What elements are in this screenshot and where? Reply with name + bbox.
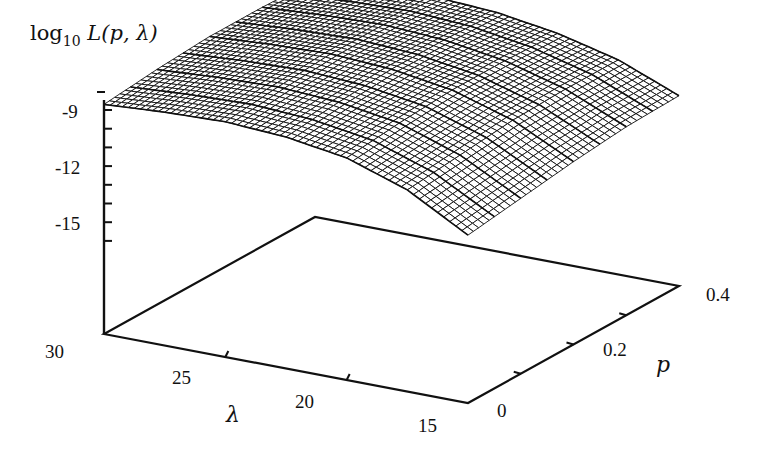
likelihood-surface [104, 0, 679, 235]
lambda-axis-title: λ [225, 402, 240, 427]
z-axis-title: log10 L(p, λ) [30, 21, 158, 49]
lambda-tick-label: 30 [45, 341, 64, 362]
p-tick-label: 0.4 [706, 284, 730, 305]
p-tick-label: 0.2 [603, 339, 627, 360]
z-tick-label: -9 [62, 101, 78, 122]
lambda-tick-label: 25 [172, 367, 191, 388]
lambda-tick-label: 20 [295, 391, 314, 412]
surface-plot: log10 L(p, λ) -9 -12 -15 30 25 20 15 λ 0… [0, 0, 776, 452]
z-tick-label: -15 [55, 213, 80, 234]
lambda-tick-label: 15 [418, 415, 437, 436]
p-tick-label: 0 [497, 400, 507, 421]
p-axis-title: p [656, 352, 670, 377]
z-tick-label: -12 [55, 157, 80, 178]
